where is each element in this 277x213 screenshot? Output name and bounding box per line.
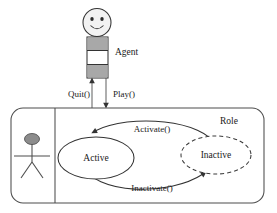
diagram-svg: Agent Quit() Play() Role	[0, 0, 277, 213]
agent-label: Agent	[115, 47, 139, 57]
play-label: Play()	[113, 89, 135, 99]
quit-connector[interactable]	[89, 78, 95, 109]
inactivate-label: Inactivate()	[131, 183, 172, 193]
role-label: Role	[220, 116, 238, 126]
quit-label: Quit()	[68, 89, 90, 99]
state-inactive-label: Inactive	[201, 150, 232, 160]
agent-body-bar	[87, 37, 108, 78]
state-active-label: Active	[83, 153, 108, 163]
diagram-canvas: Agent Quit() Play() Role	[0, 0, 277, 213]
agent-actor[interactable]: Agent	[83, 9, 139, 79]
state-inactive[interactable]: Inactive	[181, 136, 251, 174]
play-connector[interactable]	[103, 78, 109, 109]
activate-label: Activate()	[134, 124, 170, 134]
smiley-face-icon	[83, 9, 111, 37]
state-active[interactable]: Active	[58, 137, 134, 179]
